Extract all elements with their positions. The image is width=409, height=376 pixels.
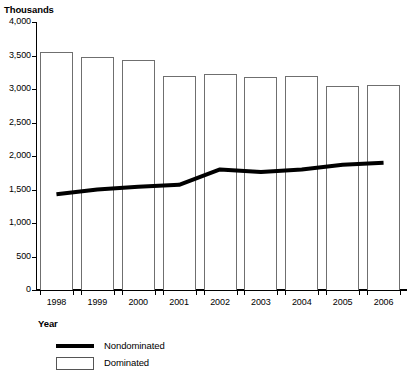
legend-box-swatch-icon — [56, 357, 94, 370]
bar — [367, 85, 400, 290]
x-axis-tick-label: 2004 — [282, 297, 322, 307]
y-axis-tick-label: 0 — [26, 285, 31, 294]
x-axis-tick-mark — [367, 291, 368, 295]
y-axis-tick-label: 1,500 — [9, 185, 31, 194]
x-axis-tick-mark — [326, 291, 327, 295]
x-axis-tick-label: 2006 — [364, 297, 404, 307]
y-axis-tick-label: 500 — [16, 252, 31, 261]
y-axis-tick-label: 3,500 — [9, 51, 31, 60]
chart-legend: Nondominated Dominated — [56, 338, 316, 372]
x-axis-tick-mark — [40, 291, 41, 295]
x-axis-tick-mark — [400, 291, 401, 295]
y-axis-tick-label: 2,000 — [9, 151, 31, 160]
legend-label-dominated: Dominated — [104, 357, 149, 369]
x-axis-tick-mark — [163, 291, 164, 295]
y-axis-tick-labels: 05001,0001,5002,0002,5003,0003,5004,000 — [0, 0, 31, 376]
chart-figure: Thousands 05001,0001,5002,0002,5003,0003… — [0, 0, 409, 376]
x-axis-tick-mark — [318, 291, 319, 295]
x-axis-tick-label: 1998 — [36, 297, 76, 307]
y-axis-tick-label: 3,000 — [9, 84, 31, 93]
x-axis-title: Year — [38, 318, 58, 329]
x-axis-tick-mark — [244, 291, 245, 295]
x-axis-tick-label: 2000 — [118, 297, 158, 307]
x-axis-tick-mark — [81, 291, 82, 295]
y-axis-tick-label: 2,500 — [9, 118, 31, 127]
x-axis-tick-mark — [359, 291, 360, 295]
x-axis-tick-mark — [155, 291, 156, 295]
bar — [244, 77, 277, 290]
x-axis-tick-labels: 199819992000200120022003200420052006 — [36, 293, 404, 309]
x-axis-tick-mark — [277, 291, 278, 295]
x-axis-tick-label: 1999 — [77, 297, 117, 307]
plot-area — [36, 22, 404, 290]
bar — [122, 60, 155, 290]
x-axis-tick-mark — [196, 291, 197, 295]
x-axis-tick-mark — [237, 291, 238, 295]
bar — [204, 74, 237, 290]
bar — [40, 52, 73, 290]
bar — [285, 76, 318, 290]
x-axis-tick-label: 2002 — [200, 297, 240, 307]
legend-line-swatch-icon — [56, 344, 94, 348]
legend-label-nondominated: Nondominated — [104, 340, 165, 352]
x-axis-tick-mark — [204, 291, 205, 295]
x-axis-tick-label: 2003 — [241, 297, 281, 307]
legend-item-dominated: Dominated — [56, 355, 316, 372]
x-axis-tick-mark — [285, 291, 286, 295]
legend-item-nondominated: Nondominated — [56, 338, 316, 355]
y-axis-tick-label: 1,000 — [9, 218, 31, 227]
y-axis-tick-label: 4,000 — [9, 17, 31, 26]
x-axis-tick-label: 2005 — [323, 297, 363, 307]
x-axis-tick-mark — [122, 291, 123, 295]
bar — [81, 57, 114, 290]
bar — [163, 76, 196, 290]
bar — [326, 86, 359, 290]
x-axis-tick-mark — [73, 291, 74, 295]
x-axis-tick-mark — [114, 291, 115, 295]
x-axis-tick-label: 2001 — [159, 297, 199, 307]
